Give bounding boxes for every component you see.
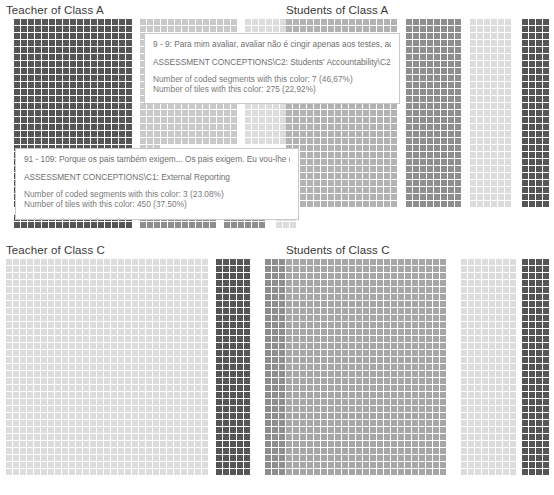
tile[interactable] bbox=[62, 371, 68, 377]
tile[interactable] bbox=[41, 343, 47, 349]
tile[interactable] bbox=[188, 427, 194, 433]
tile[interactable] bbox=[300, 357, 306, 363]
tile[interactable] bbox=[363, 413, 369, 419]
tile[interactable] bbox=[448, 173, 454, 179]
tile[interactable] bbox=[34, 462, 40, 468]
tile[interactable] bbox=[496, 322, 502, 328]
tile[interactable] bbox=[522, 145, 528, 151]
tile[interactable] bbox=[441, 75, 447, 81]
tile[interactable] bbox=[118, 371, 124, 377]
tile[interactable] bbox=[405, 273, 411, 279]
tile[interactable] bbox=[349, 117, 355, 123]
tile[interactable] bbox=[475, 322, 481, 328]
tile[interactable] bbox=[118, 294, 124, 300]
tile[interactable] bbox=[314, 273, 320, 279]
tile[interactable] bbox=[406, 131, 412, 137]
tile[interactable] bbox=[335, 455, 341, 461]
tile[interactable] bbox=[491, 159, 497, 165]
tile[interactable] bbox=[202, 469, 208, 475]
tile[interactable] bbox=[83, 357, 89, 363]
tile[interactable] bbox=[293, 308, 299, 314]
tile[interactable] bbox=[398, 378, 404, 384]
tile[interactable] bbox=[384, 259, 390, 265]
tile[interactable] bbox=[543, 322, 549, 328]
tile[interactable] bbox=[167, 266, 173, 272]
tile[interactable] bbox=[237, 322, 243, 328]
tile[interactable] bbox=[83, 455, 89, 461]
tile[interactable] bbox=[440, 385, 446, 391]
tile[interactable] bbox=[328, 152, 334, 158]
tile[interactable] bbox=[195, 301, 201, 307]
tile[interactable] bbox=[48, 308, 54, 314]
tile[interactable] bbox=[83, 441, 89, 447]
tile[interactable] bbox=[377, 364, 383, 370]
tile[interactable] bbox=[377, 469, 383, 475]
tile[interactable] bbox=[522, 180, 528, 186]
tile[interactable] bbox=[491, 201, 497, 207]
tile[interactable] bbox=[118, 427, 124, 433]
tile[interactable] bbox=[496, 301, 502, 307]
tile[interactable] bbox=[139, 462, 145, 468]
tile[interactable] bbox=[13, 413, 19, 419]
tile-block[interactable] bbox=[6, 259, 209, 476]
tile-block[interactable] bbox=[522, 19, 550, 208]
tile[interactable] bbox=[13, 287, 19, 293]
tile[interactable] bbox=[132, 371, 138, 377]
tile[interactable] bbox=[356, 392, 362, 398]
tile[interactable] bbox=[160, 329, 166, 335]
tile[interactable] bbox=[195, 399, 201, 405]
tile[interactable] bbox=[104, 434, 110, 440]
tile[interactable] bbox=[370, 399, 376, 405]
tile[interactable] bbox=[503, 266, 509, 272]
tile[interactable] bbox=[77, 96, 83, 102]
tile[interactable] bbox=[314, 166, 320, 172]
tile[interactable] bbox=[90, 308, 96, 314]
tile[interactable] bbox=[195, 371, 201, 377]
tile[interactable] bbox=[510, 308, 516, 314]
tile[interactable] bbox=[265, 336, 271, 342]
tile[interactable] bbox=[126, 19, 132, 25]
tile[interactable] bbox=[91, 61, 97, 67]
tile[interactable] bbox=[461, 385, 467, 391]
tile[interactable] bbox=[448, 131, 454, 137]
tile[interactable] bbox=[370, 301, 376, 307]
tile[interactable] bbox=[384, 448, 390, 454]
tile[interactable] bbox=[398, 385, 404, 391]
tile[interactable] bbox=[505, 61, 511, 67]
tile[interactable] bbox=[189, 138, 195, 144]
tile[interactable] bbox=[98, 26, 104, 32]
tile[interactable] bbox=[174, 259, 180, 265]
tile[interactable] bbox=[335, 194, 341, 200]
tile[interactable] bbox=[321, 294, 327, 300]
tile[interactable] bbox=[139, 273, 145, 279]
tile[interactable] bbox=[244, 427, 250, 433]
tile[interactable] bbox=[175, 26, 181, 32]
tile[interactable] bbox=[111, 385, 117, 391]
tile[interactable] bbox=[231, 222, 237, 228]
tile[interactable] bbox=[70, 54, 76, 60]
tile[interactable] bbox=[83, 294, 89, 300]
tile[interactable] bbox=[426, 385, 432, 391]
tile[interactable] bbox=[505, 75, 511, 81]
tile[interactable] bbox=[314, 138, 320, 144]
tile[interactable] bbox=[433, 322, 439, 328]
tile[interactable] bbox=[161, 222, 167, 228]
tile[interactable] bbox=[356, 19, 362, 25]
tile[interactable] bbox=[237, 441, 243, 447]
tile[interactable] bbox=[440, 469, 446, 475]
tile[interactable] bbox=[217, 19, 223, 25]
tile[interactable] bbox=[370, 469, 376, 475]
tile[interactable] bbox=[427, 166, 433, 172]
tile[interactable] bbox=[377, 187, 383, 193]
tile[interactable] bbox=[286, 117, 292, 123]
tile[interactable] bbox=[147, 222, 153, 228]
tile[interactable] bbox=[448, 152, 454, 158]
tile[interactable] bbox=[293, 427, 299, 433]
tile[interactable] bbox=[224, 117, 230, 123]
tile[interactable] bbox=[279, 441, 285, 447]
tile[interactable] bbox=[475, 266, 481, 272]
tile[interactable] bbox=[328, 413, 334, 419]
tile[interactable] bbox=[510, 448, 516, 454]
tile[interactable] bbox=[307, 152, 313, 158]
tile[interactable] bbox=[300, 159, 306, 165]
